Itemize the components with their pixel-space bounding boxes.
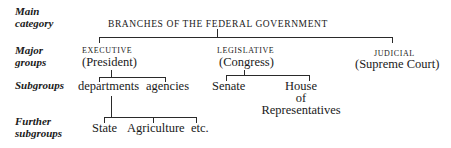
row-label-major-groups: Major groups [15,44,46,68]
row-label-text: category [15,17,53,29]
connector-line [104,117,197,118]
judicial-sublabel: (Supreme Court) [355,58,439,71]
connector-line [111,96,112,118]
agencies-node: agencies [146,80,189,93]
connector-line [99,37,100,43]
executive-node: EXECUTIVE [82,47,132,55]
executive-sublabel: (President) [82,56,137,69]
row-label-main-category: Main category [15,5,53,29]
connector-line [392,37,393,43]
row-label-text: subgroups [15,127,62,139]
row-label-subgroups: Subgroups [15,79,64,91]
agriculture-node: Agriculture [127,122,185,135]
house-node: House of Representatives [261,80,340,116]
connector-line [111,70,112,77]
connector-line [99,77,166,78]
legislative-sublabel: (Congress) [219,56,274,69]
house-text: Representatives [261,104,340,116]
row-label-text: groups [15,56,46,68]
state-node: State [92,122,117,135]
connector-line [226,75,310,76]
row-label-text: Main [15,5,53,17]
legislative-node: LEGISLATIVE [217,47,274,55]
row-label-text: Major [15,44,46,56]
connector-line [99,37,393,38]
row-label-text: Further [15,115,62,127]
row-label-further-subgroups: Further subgroups [15,115,62,139]
departments-node: departments [78,80,139,93]
senate-node: Senate [212,80,245,93]
etc-node: etc. [191,122,209,135]
